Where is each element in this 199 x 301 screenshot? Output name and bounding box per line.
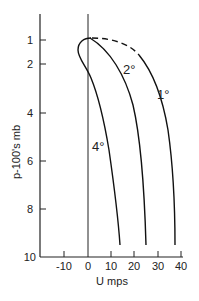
curve-label-2: 2° bbox=[123, 62, 135, 77]
x-tick-label: 0 bbox=[85, 260, 91, 272]
chart: 1 2 4 6 8 10 p-100's mb -10 0 10 20 30 4… bbox=[0, 0, 199, 301]
y-tick-label: 8 bbox=[27, 203, 33, 215]
y-tick-label: 6 bbox=[27, 155, 33, 167]
x-tick-label: 20 bbox=[128, 260, 140, 272]
x-tick-label: 10 bbox=[105, 260, 117, 272]
curve-label-4: 4° bbox=[92, 139, 104, 154]
y-ticks bbox=[40, 40, 46, 209]
y-tick-label: 4 bbox=[27, 107, 33, 119]
x-axis-title: U mps bbox=[96, 275, 128, 287]
x-tick-label: 30 bbox=[152, 260, 164, 272]
x-tick-label: 40 bbox=[175, 260, 187, 272]
y-tick-label: 1 bbox=[27, 34, 33, 46]
x-ticks bbox=[64, 251, 181, 257]
x-tick-label: -10 bbox=[56, 260, 72, 272]
curve-label-1: 1° bbox=[157, 87, 169, 102]
y-axis-title: p-100's mb bbox=[10, 125, 22, 179]
curve-1-degree-dashed bbox=[92, 38, 139, 55]
y-tick-label: 2 bbox=[27, 58, 33, 70]
y-tick-label: 10 bbox=[24, 251, 36, 263]
